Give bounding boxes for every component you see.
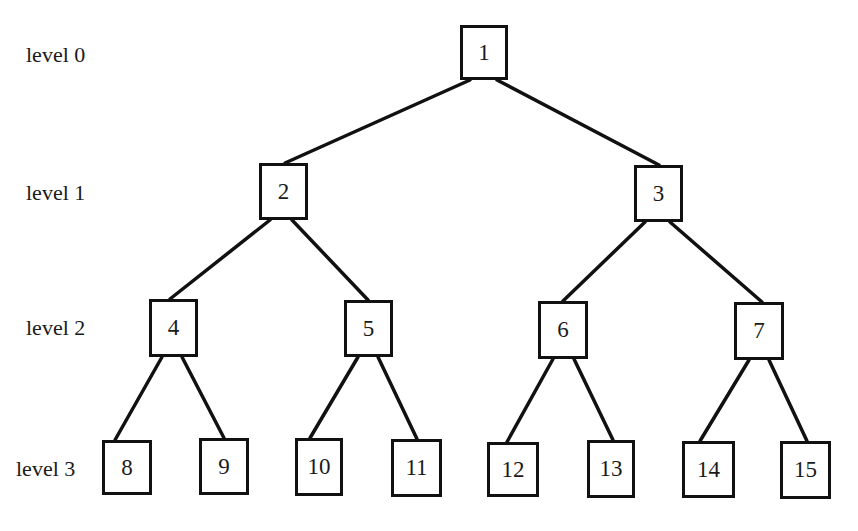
edge-1-3 bbox=[497, 80, 659, 165]
node-label: 9 bbox=[218, 454, 230, 480]
node-label: 14 bbox=[697, 457, 720, 483]
node-label: 15 bbox=[794, 457, 817, 483]
tree-node-13: 13 bbox=[587, 440, 635, 498]
edge-5-11 bbox=[378, 357, 417, 439]
tree-node-12: 12 bbox=[487, 442, 539, 497]
node-label: 10 bbox=[308, 454, 331, 480]
binary-tree-diagram: level 0level 1level 2level 3 12345678910… bbox=[0, 0, 858, 531]
edge-7-14 bbox=[700, 360, 749, 441]
edge-7-15 bbox=[769, 360, 807, 441]
node-label: 3 bbox=[653, 181, 665, 207]
node-label: 5 bbox=[363, 316, 375, 342]
tree-node-14: 14 bbox=[682, 441, 735, 498]
edge-2-5 bbox=[292, 220, 368, 300]
edge-1-2 bbox=[285, 80, 470, 163]
level-label-0: level 0 bbox=[26, 44, 85, 66]
tree-node-10: 10 bbox=[295, 438, 343, 496]
edge-4-8 bbox=[115, 357, 162, 440]
node-label: 13 bbox=[600, 456, 623, 482]
edge-6-12 bbox=[507, 359, 553, 442]
tree-node-11: 11 bbox=[391, 439, 442, 497]
node-label: 4 bbox=[168, 315, 180, 341]
tree-node-1: 1 bbox=[460, 25, 508, 80]
node-label: 8 bbox=[121, 455, 133, 481]
tree-node-6: 6 bbox=[538, 301, 588, 359]
node-label: 12 bbox=[502, 457, 525, 483]
edge-6-13 bbox=[574, 359, 613, 440]
edge-5-10 bbox=[310, 357, 358, 438]
node-label: 1 bbox=[478, 40, 490, 66]
node-label: 2 bbox=[278, 179, 290, 205]
edge-3-7 bbox=[670, 222, 762, 302]
tree-node-3: 3 bbox=[634, 165, 683, 222]
tree-node-8: 8 bbox=[102, 440, 152, 495]
edge-4-9 bbox=[182, 357, 224, 438]
tree-node-5: 5 bbox=[344, 300, 393, 357]
tree-node-9: 9 bbox=[199, 438, 249, 495]
tree-node-2: 2 bbox=[259, 163, 308, 220]
level-label-3: level 3 bbox=[16, 458, 75, 480]
edge-3-6 bbox=[563, 222, 645, 301]
node-label: 11 bbox=[405, 455, 427, 481]
node-label: 7 bbox=[753, 318, 765, 344]
edge-2-4 bbox=[170, 220, 270, 299]
tree-node-15: 15 bbox=[780, 441, 831, 499]
level-label-2: level 2 bbox=[26, 317, 85, 339]
level-label-1: level 1 bbox=[26, 182, 85, 204]
tree-node-7: 7 bbox=[734, 302, 784, 360]
tree-node-4: 4 bbox=[149, 299, 198, 357]
node-label: 6 bbox=[557, 317, 569, 343]
